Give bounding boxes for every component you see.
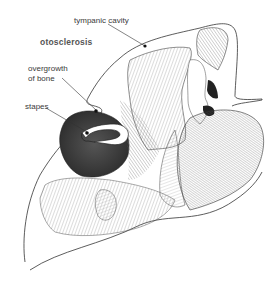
diagram-title: otosclerosis: [40, 37, 92, 47]
otosclerosis-diagram: tympanic cavity otosclerosis overgrowth …: [0, 0, 273, 289]
cochlea-lobe: [177, 110, 264, 210]
leader-overgrowth: [62, 78, 96, 110]
label-tympanic-cavity: tympanic cavity: [74, 16, 129, 26]
leader-tympanic-cavity: [108, 24, 145, 46]
label-overgrowth-line2: of bone: [28, 74, 55, 84]
label-stapes: stapes: [25, 102, 49, 112]
label-overgrowth-line1: overgrowth: [28, 64, 68, 74]
